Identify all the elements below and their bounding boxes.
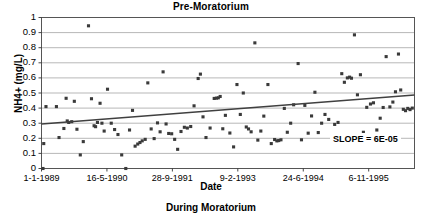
data-point bbox=[99, 102, 102, 105]
bottom-caption: During Moratorium bbox=[0, 202, 422, 214]
data-point bbox=[300, 138, 303, 141]
data-point bbox=[262, 115, 265, 118]
y-tick-label: 0.4 bbox=[10, 103, 36, 113]
data-point bbox=[303, 104, 306, 107]
data-point bbox=[189, 125, 192, 128]
data-point bbox=[224, 114, 227, 117]
tick-marks bbox=[39, 18, 369, 172]
data-point bbox=[146, 81, 149, 84]
data-point bbox=[204, 136, 207, 139]
chart-figure: Pre-Moratorium NH4+ (mg/L) 00.10.20.30.4… bbox=[0, 0, 422, 220]
data-point bbox=[228, 131, 231, 134]
data-point bbox=[75, 128, 78, 131]
gridlines bbox=[42, 33, 415, 169]
y-tick-label: 0 bbox=[10, 163, 36, 173]
data-point bbox=[397, 52, 400, 55]
data-point bbox=[343, 81, 346, 84]
y-tick-label: 0.2 bbox=[10, 133, 36, 143]
data-point bbox=[62, 127, 65, 130]
data-point bbox=[250, 130, 253, 133]
y-tick-label: 0.9 bbox=[10, 27, 36, 37]
data-point bbox=[179, 130, 182, 133]
data-point bbox=[186, 126, 189, 129]
data-point bbox=[340, 72, 343, 75]
data-point bbox=[256, 139, 259, 142]
data-point bbox=[253, 41, 256, 44]
trend-line bbox=[42, 95, 415, 124]
data-point bbox=[313, 91, 316, 94]
data-point bbox=[356, 93, 359, 96]
data-point bbox=[110, 122, 113, 125]
data-point bbox=[394, 90, 397, 93]
data-point bbox=[266, 83, 269, 86]
y-tick-label: 0.7 bbox=[10, 57, 36, 67]
data-point bbox=[353, 33, 356, 36]
y-tick-label: 0.3 bbox=[10, 118, 36, 128]
data-point-series bbox=[41, 24, 413, 170]
data-point bbox=[359, 73, 362, 76]
y-tick-label: 0.6 bbox=[10, 72, 36, 82]
data-point bbox=[159, 130, 162, 133]
slope-annotation: SLOPE = 6E-05 bbox=[330, 133, 401, 146]
data-point bbox=[65, 97, 68, 100]
x-axis-title: Date bbox=[0, 181, 422, 193]
data-point bbox=[193, 104, 196, 107]
data-point bbox=[167, 132, 170, 135]
y-tick-label: 0.8 bbox=[10, 42, 36, 52]
data-point bbox=[82, 140, 85, 143]
data-point bbox=[372, 101, 375, 104]
data-point bbox=[239, 113, 242, 116]
y-tick-label: 0.1 bbox=[10, 148, 36, 158]
data-point bbox=[90, 97, 93, 100]
data-point bbox=[388, 105, 391, 108]
data-point bbox=[270, 142, 273, 145]
data-point bbox=[333, 123, 336, 126]
data-point bbox=[128, 128, 131, 131]
data-point bbox=[57, 136, 60, 139]
data-point bbox=[199, 73, 202, 76]
data-point bbox=[310, 114, 313, 117]
data-point bbox=[150, 127, 153, 130]
data-point bbox=[283, 107, 286, 110]
data-point bbox=[170, 132, 173, 135]
data-point bbox=[173, 138, 176, 141]
data-point bbox=[124, 167, 127, 170]
data-point bbox=[209, 126, 212, 129]
data-point bbox=[106, 88, 109, 91]
data-point bbox=[131, 109, 134, 112]
data-point bbox=[365, 106, 368, 109]
data-point bbox=[336, 121, 339, 124]
data-point bbox=[42, 142, 45, 145]
data-point bbox=[286, 131, 289, 134]
data-point bbox=[242, 91, 245, 94]
data-point bbox=[350, 77, 353, 80]
data-point bbox=[120, 153, 123, 156]
data-point bbox=[176, 148, 179, 151]
data-point bbox=[279, 138, 282, 141]
data-point bbox=[399, 88, 402, 91]
data-point bbox=[113, 128, 116, 131]
trend-line-segment bbox=[42, 95, 415, 124]
data-point bbox=[385, 55, 388, 58]
data-point bbox=[55, 105, 58, 108]
data-point bbox=[411, 107, 414, 110]
data-point bbox=[141, 139, 144, 142]
data-point bbox=[165, 122, 168, 125]
data-point bbox=[221, 127, 224, 130]
y-tick-label: 0.5 bbox=[10, 88, 36, 98]
data-point bbox=[44, 105, 47, 108]
data-point bbox=[162, 70, 165, 73]
data-point bbox=[307, 132, 310, 135]
data-point bbox=[235, 83, 238, 86]
data-point bbox=[197, 77, 200, 80]
y-tick-label: 1 bbox=[10, 12, 36, 22]
data-point bbox=[100, 122, 103, 125]
data-point bbox=[156, 121, 159, 124]
data-point bbox=[96, 121, 99, 124]
data-point bbox=[94, 125, 97, 128]
data-point bbox=[116, 133, 119, 136]
data-point bbox=[369, 102, 372, 105]
data-point bbox=[391, 101, 394, 104]
data-point bbox=[320, 122, 323, 125]
data-point bbox=[317, 131, 320, 134]
